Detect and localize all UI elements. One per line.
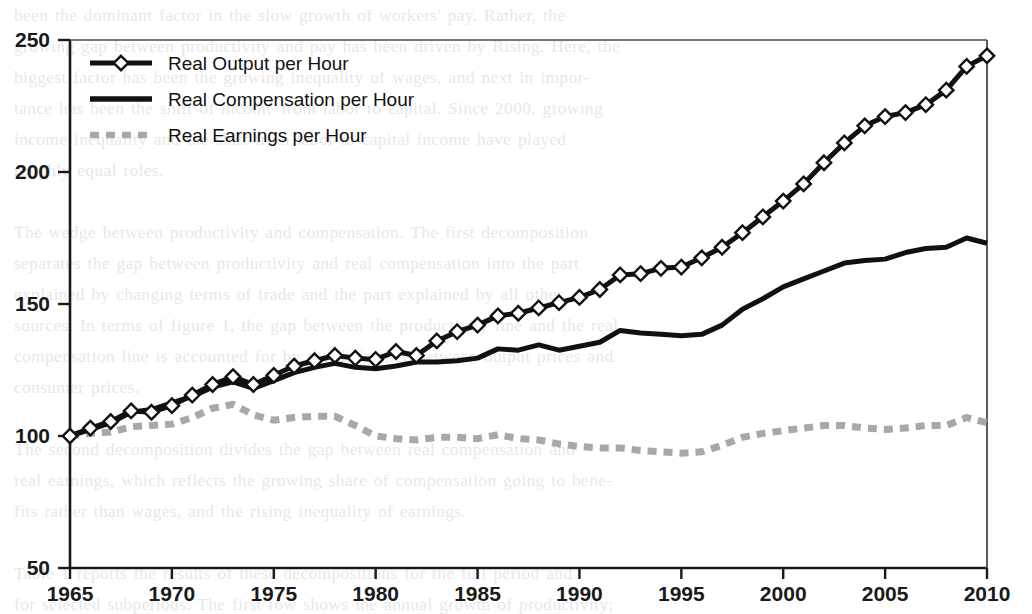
data-point-marker: [572, 290, 586, 304]
legend-item-2[interactable]: Real Earnings per Hour: [90, 125, 367, 146]
legend-item-1[interactable]: Real Compensation per Hour: [90, 89, 415, 110]
data-point-marker: [898, 105, 912, 119]
tick-labels: 5010015020025019651970197519801985199019…: [15, 28, 1010, 605]
legend-label: Real Earnings per Hour: [168, 125, 367, 146]
data-point-marker: [368, 352, 382, 366]
x-tick-label: 1965: [47, 582, 94, 605]
chart-axes: [70, 40, 987, 568]
y-tick-label: 250: [15, 28, 50, 51]
data-point-marker: [328, 348, 342, 362]
x-tick-label: 2000: [760, 582, 807, 605]
data-point-marker: [470, 318, 484, 332]
y-tick-label: 150: [15, 292, 50, 315]
legend-label: Real Compensation per Hour: [168, 89, 415, 110]
data-point-marker: [878, 109, 892, 123]
data-point-marker: [389, 344, 403, 358]
chart-container: been the dominant factor in the slow gro…: [0, 0, 1032, 614]
data-point-marker: [552, 295, 566, 309]
series-1: [70, 238, 987, 436]
data-point-marker: [491, 309, 505, 323]
x-tick-label: 1980: [352, 582, 399, 605]
line-chart: 5010015020025019651970197519801985199019…: [0, 0, 1032, 614]
legend-diamond-icon: [114, 56, 128, 70]
data-point-marker: [633, 266, 647, 280]
data-point-marker: [246, 377, 260, 391]
x-tick-label: 1975: [250, 582, 297, 605]
y-tick-label: 100: [15, 424, 50, 447]
legend-item-0[interactable]: Real Output per Hour: [90, 53, 349, 74]
x-tick-label: 1970: [149, 582, 196, 605]
data-point-marker: [531, 301, 545, 315]
y-tick-label: 200: [15, 160, 50, 183]
data-point-marker: [654, 261, 668, 275]
x-tick-label: 1990: [556, 582, 603, 605]
legend-label: Real Output per Hour: [168, 53, 349, 74]
data-point-marker: [511, 306, 525, 320]
x-tick-label: 2010: [964, 582, 1011, 605]
x-tick-label: 2005: [862, 582, 909, 605]
data-point-marker: [450, 325, 464, 339]
data-point-marker: [63, 429, 77, 443]
data-point-marker: [674, 260, 688, 274]
y-tick-label: 50: [27, 556, 50, 579]
series-2: [70, 404, 987, 453]
x-tick-label: 1995: [658, 582, 705, 605]
chart-legend: Real Output per HourReal Compensation pe…: [90, 53, 415, 146]
data-point-marker: [348, 351, 362, 365]
x-tick-label: 1985: [454, 582, 501, 605]
